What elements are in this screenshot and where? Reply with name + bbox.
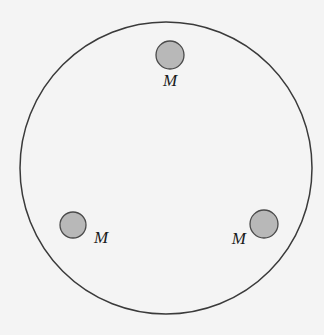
- diagram-svg: MMM: [0, 0, 324, 335]
- masses-group: MMM: [60, 41, 278, 248]
- mass-label-bottom-left: M: [93, 228, 109, 247]
- mass-label-top: M: [162, 71, 178, 90]
- diagram-canvas: MMM: [0, 0, 324, 335]
- mass-top: [156, 41, 184, 69]
- mass-label-bottom-right: M: [231, 229, 247, 248]
- mass-bottom-right: [250, 210, 278, 238]
- mass-bottom-left: [60, 212, 86, 238]
